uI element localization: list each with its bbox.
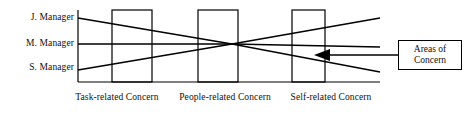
callout-line-2: Concern bbox=[414, 55, 446, 66]
areas-of-concern-callout: Areas of Concern bbox=[398, 40, 462, 70]
axis-label-self-related: Self-related Concern bbox=[276, 92, 386, 102]
diagram-canvas: J. Manager M. Manager S. Manager Areas o… bbox=[0, 0, 468, 122]
axis-label-people-related: People-related Concern bbox=[168, 92, 282, 102]
callout-line-1: Areas of bbox=[414, 44, 446, 55]
band-task-related bbox=[112, 10, 152, 82]
axis-label-task-related: Task-related Concern bbox=[62, 92, 172, 102]
callout-arrow-head bbox=[314, 49, 330, 61]
